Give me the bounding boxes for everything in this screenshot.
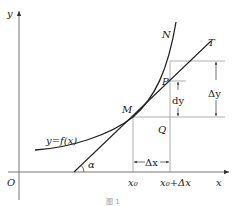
- origin-label: O: [7, 177, 15, 188]
- diagram-canvas: y x O y=f(x) N T α M P Q x₀ x₀+Δx Δx Δy …: [0, 0, 236, 206]
- alpha-arc: [81, 165, 84, 172]
- curve-fx: [35, 22, 176, 150]
- curve-label: y=f(x): [45, 135, 77, 146]
- q-label: Q: [158, 124, 166, 135]
- m-label: M: [121, 104, 133, 115]
- n-label: N: [161, 29, 172, 40]
- diagram-svg: y x O y=f(x) N T α M P Q x₀ x₀+Δx Δx Δy …: [0, 0, 236, 206]
- delta-y-label: Δy: [208, 88, 221, 99]
- dy-label: dy: [172, 95, 184, 106]
- t-label: T: [208, 37, 216, 48]
- figure-caption: 图 1: [106, 198, 120, 206]
- delta-x-label: Δx: [145, 157, 158, 168]
- x0-label: x₀: [128, 177, 138, 188]
- p-label: P: [161, 76, 169, 87]
- y-axis-label: y: [6, 8, 13, 19]
- tangent-line: [74, 41, 211, 172]
- alpha-label: α: [88, 159, 95, 170]
- x-axis-label: x: [216, 177, 222, 188]
- x0-plus-dx-label: x₀+Δx: [160, 177, 191, 188]
